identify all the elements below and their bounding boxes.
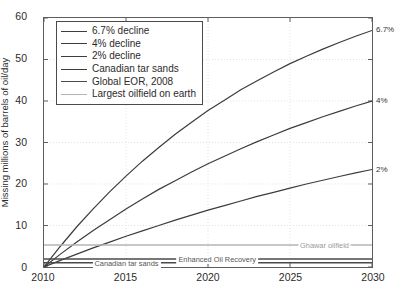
- y-tick-label: 20: [0, 178, 27, 188]
- x-tick-label: 2010: [18, 272, 68, 283]
- annotation-label: Canadian tar sands: [92, 260, 160, 268]
- legend-item: 4% decline: [61, 38, 196, 51]
- legend-item-label: 4% decline: [92, 38, 141, 50]
- legend-item: Global EOR, 2008: [61, 75, 196, 88]
- annotation-label: Enhanced Oil Recovery: [176, 256, 258, 264]
- legend-item-label: 2% decline: [92, 50, 141, 62]
- legend-swatch-icon: [61, 81, 87, 82]
- legend-swatch-icon: [61, 31, 87, 32]
- series-end-label: 4%: [376, 97, 388, 105]
- chart-figure: Missing millions of barrels of oil/day 0…: [0, 0, 401, 305]
- legend-item: 2% decline: [61, 50, 196, 63]
- series-line: [44, 169, 372, 267]
- y-tick-label: 40: [0, 95, 27, 105]
- legend-item-label: Canadian tar sands: [92, 63, 179, 75]
- legend-swatch-icon: [61, 94, 87, 95]
- legend-swatch-icon: [61, 69, 87, 70]
- x-tick-label: 2020: [183, 272, 233, 283]
- y-tick-label: 0: [0, 262, 27, 272]
- legend-swatch-icon: [61, 56, 87, 57]
- legend-item-label: 6.7% decline: [92, 25, 149, 37]
- series-end-label: 2%: [376, 166, 388, 174]
- y-tick-label: 50: [0, 53, 27, 63]
- y-tick-label: 10: [0, 220, 27, 230]
- legend-swatch-icon: [61, 43, 87, 44]
- legend-item: 6.7% decline: [61, 25, 196, 38]
- legend-item: Canadian tar sands: [61, 63, 196, 76]
- y-tick-label: 30: [0, 137, 27, 147]
- chart-legend: 6.7% decline4% decline2% declineCanadian…: [56, 21, 203, 105]
- x-tick-label: 2030: [348, 272, 398, 283]
- legend-item-label: Global EOR, 2008: [92, 76, 173, 88]
- y-tick-label: 60: [0, 11, 27, 21]
- legend-item: Largest oilfield on earth: [61, 88, 196, 101]
- legend-item-label: Largest oilfield on earth: [92, 88, 196, 100]
- annotation-label: Ghawar oilfield: [298, 242, 351, 250]
- x-tick-label: 2015: [101, 272, 151, 283]
- series-end-label: 6.7%: [376, 26, 394, 34]
- x-tick-label: 2025: [266, 272, 316, 283]
